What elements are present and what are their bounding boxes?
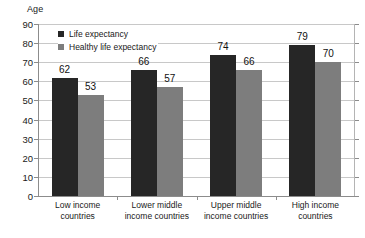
bar-value-label: 74 <box>218 41 229 52</box>
y-axis-tick-labels: 9080706050403020100 <box>0 24 33 196</box>
bar-value-label: 62 <box>59 64 70 75</box>
y-axis-tick-label: 80 <box>3 38 33 49</box>
bar[interactable]: 62 <box>52 78 78 196</box>
category-label-line: Lower middle <box>118 200 195 211</box>
bar-value-label: 79 <box>297 31 308 42</box>
bar-chart: Age 9080706050403020100 6253665774667970… <box>0 0 365 238</box>
y-axis-tick-label: 20 <box>3 153 33 164</box>
category-label-line: countries <box>39 211 116 222</box>
y-axis-tick-right <box>355 120 359 121</box>
bar[interactable]: 70 <box>315 62 341 196</box>
x-axis-category-label: Lower middleincome countries <box>117 200 196 222</box>
bar-value-label: 66 <box>244 56 255 67</box>
y-axis-tick-label: 30 <box>3 134 33 145</box>
category-label-line: income countries <box>198 211 275 222</box>
bar[interactable]: 57 <box>157 87 183 196</box>
bar[interactable]: 74 <box>210 55 236 196</box>
bar[interactable]: 66 <box>236 70 262 196</box>
y-axis-tick-label: 10 <box>3 172 33 183</box>
bar-value-label: 57 <box>164 73 175 84</box>
y-axis-tick-right <box>355 196 359 197</box>
legend-item-life-expectancy[interactable]: Life expectancy <box>58 29 158 39</box>
bar-group: 7970 <box>276 24 355 196</box>
y-axis-tick-right <box>355 177 359 178</box>
y-axis-tick-right <box>355 24 359 25</box>
category-label-line: countries <box>277 211 354 222</box>
x-axis-category-label: High incomecountries <box>276 200 355 222</box>
category-separator-tick <box>197 196 198 200</box>
bar-value-label: 70 <box>323 48 334 59</box>
category-separator-tick <box>276 196 277 200</box>
bar-value-label: 53 <box>85 81 96 92</box>
y-axis-tick-right <box>355 139 359 140</box>
legend-item-label: Life expectancy <box>69 29 128 39</box>
category-separator-tick <box>117 196 118 200</box>
legend-swatch-icon <box>58 31 64 37</box>
y-axis-tick-right <box>355 81 359 82</box>
y-axis-tick-label: 90 <box>3 19 33 30</box>
y-axis-title: Age <box>27 4 43 14</box>
y-axis-tick-label: 0 <box>3 191 33 202</box>
x-axis-category-label: Upper middleincome countries <box>197 200 276 222</box>
y-axis-tick-label: 60 <box>3 76 33 87</box>
y-axis-tick-right <box>355 43 359 44</box>
bar-group: 7466 <box>197 24 276 196</box>
y-axis-tick-right <box>355 62 359 63</box>
y-axis-tick-right <box>355 100 359 101</box>
y-axis-tick-label: 50 <box>3 95 33 106</box>
bar[interactable]: 79 <box>289 45 315 196</box>
bar[interactable]: 66 <box>131 70 157 196</box>
x-axis-category-label: Low incomecountries <box>38 200 117 222</box>
bar-value-label: 66 <box>138 56 149 67</box>
legend-swatch-icon <box>58 44 64 50</box>
legend-item-healthy-life-expectancy[interactable]: Healthy life expectancy <box>58 42 158 52</box>
legend-item-label: Healthy life expectancy <box>69 42 156 52</box>
y-axis-tick-right <box>355 158 359 159</box>
x-axis-category-labels: Low incomecountriesLower middleincome co… <box>38 200 355 222</box>
category-label-line: High income <box>277 200 354 211</box>
legend: Life expectancy Healthy life expectancy <box>58 29 158 52</box>
y-axis-tick-label: 40 <box>3 115 33 126</box>
bar[interactable]: 53 <box>78 95 104 196</box>
y-axis-tick-label: 70 <box>3 57 33 68</box>
category-label-line: Upper middle <box>198 200 275 211</box>
category-label-line: income countries <box>118 211 195 222</box>
category-label-line: Low income <box>39 200 116 211</box>
